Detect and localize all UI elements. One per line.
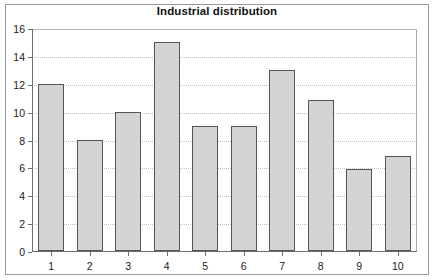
x-tick-label: 6 (241, 260, 247, 272)
bar (38, 84, 64, 251)
x-tick-label: 4 (164, 260, 170, 272)
bar (192, 126, 218, 251)
y-tick-label: 14 (13, 51, 25, 63)
x-tick-mark (244, 252, 245, 256)
x-tick-mark (51, 252, 52, 256)
bar (346, 169, 372, 251)
x-tick-label: 7 (279, 260, 285, 272)
x-tick-label: 3 (125, 260, 131, 272)
y-tick-label: 0 (19, 246, 25, 258)
gridline (32, 57, 417, 58)
bar (385, 156, 411, 251)
x-tick-mark (359, 252, 360, 256)
y-tick-label: 4 (19, 190, 25, 202)
plot-area: 0246810121416 12345678910 (32, 29, 417, 252)
gridline (32, 113, 417, 114)
bar (154, 42, 180, 251)
chart-figure: Industrial distribution 0246810121416 12… (0, 0, 434, 280)
bar (77, 140, 103, 252)
gridline (32, 85, 417, 86)
x-tick-mark (128, 252, 129, 256)
x-tick-mark (205, 252, 206, 256)
bar (308, 100, 334, 251)
x-tick-mark (321, 252, 322, 256)
x-tick-label: 1 (48, 260, 54, 272)
x-tick-label: 8 (318, 260, 324, 272)
y-tick-mark (28, 252, 32, 253)
gridline (32, 29, 417, 30)
bar (269, 70, 295, 251)
x-tick-label: 10 (392, 260, 404, 272)
chart-title: Industrial distribution (0, 5, 434, 17)
x-tick-mark (90, 252, 91, 256)
y-tick-label: 2 (19, 218, 25, 230)
bar (231, 126, 257, 251)
y-tick-label: 16 (13, 23, 25, 35)
x-tick-label: 5 (202, 260, 208, 272)
x-tick-mark (167, 252, 168, 256)
y-tick-label: 6 (19, 162, 25, 174)
bar (115, 112, 141, 251)
y-tick-label: 8 (19, 135, 25, 147)
x-tick-label: 9 (356, 260, 362, 272)
y-tick-label: 12 (13, 79, 25, 91)
x-tick-mark (398, 252, 399, 256)
x-tick-label: 2 (87, 260, 93, 272)
y-tick-label: 10 (13, 107, 25, 119)
y-axis-line (32, 29, 33, 252)
x-tick-mark (282, 252, 283, 256)
